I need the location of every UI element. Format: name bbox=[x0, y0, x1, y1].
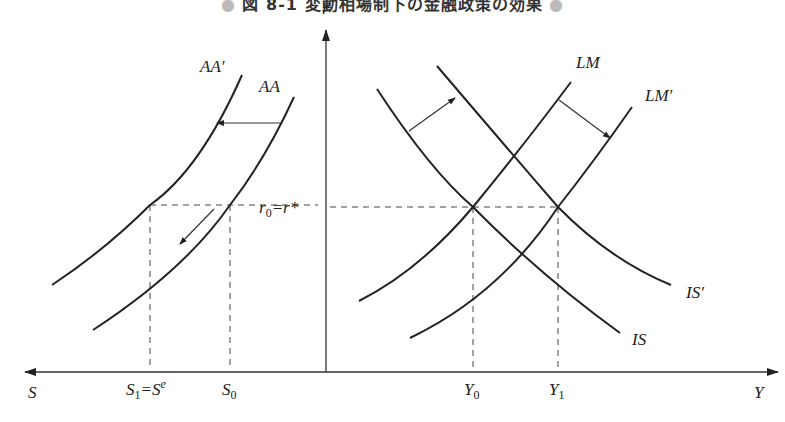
s0-label: S0 bbox=[222, 380, 237, 402]
is-prime-label: IS′ bbox=[685, 283, 704, 302]
aa-label: AA bbox=[258, 77, 280, 96]
adjust-arrow bbox=[180, 209, 214, 244]
labels: r Y S AA′ AA LM LM′ IS′ IS r0=r* Y0 Y1 S… bbox=[28, 0, 765, 402]
r0-label: r0=r* bbox=[259, 198, 299, 220]
s-axis-label: S bbox=[28, 383, 37, 402]
is-curve bbox=[377, 89, 620, 333]
lm-prime-label: LM′ bbox=[644, 86, 673, 105]
axes bbox=[25, 30, 778, 372]
is-prime-curve bbox=[437, 66, 671, 285]
y1-label: Y1 bbox=[549, 380, 564, 402]
aa-prime-curve bbox=[52, 75, 242, 285]
diagram-canvas: r Y S AA′ AA LM LM′ IS′ IS r0=r* Y0 Y1 S… bbox=[0, 0, 785, 422]
is-label: IS bbox=[631, 330, 647, 349]
r-axis-label: r bbox=[322, 0, 329, 18]
lm-shift-arrow bbox=[559, 100, 610, 138]
is-shift-arrow bbox=[409, 98, 455, 131]
aa-prime-label: AA′ bbox=[199, 57, 225, 76]
lm-prime-curve bbox=[410, 107, 632, 338]
lm-label: LM bbox=[575, 53, 600, 72]
y-axis-label: Y bbox=[754, 383, 765, 402]
s1-label: S1=Se bbox=[126, 377, 166, 402]
y0-label: Y0 bbox=[464, 380, 479, 402]
